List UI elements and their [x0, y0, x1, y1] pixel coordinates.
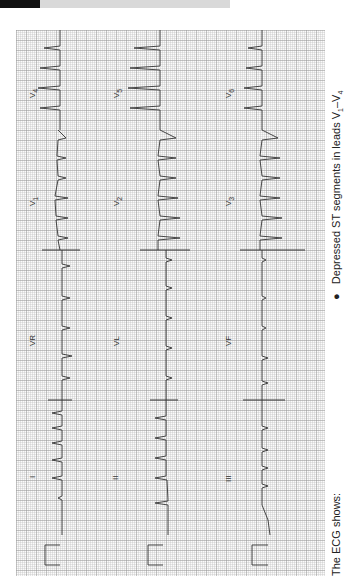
lead-label-III: III: [224, 475, 233, 482]
lead-label-I: I: [28, 476, 37, 478]
lead-label-V2: V2: [112, 197, 123, 206]
bullet-icon: ●: [330, 293, 342, 300]
lead-label-V5: V5: [112, 89, 123, 98]
lead-label-V6: V6: [224, 89, 235, 98]
lead-label-V4: V4: [28, 89, 39, 98]
lead-letter: V: [28, 201, 37, 206]
bullet-text: Depressed ST segments in leads V: [330, 112, 342, 284]
caption-bullet: ● Depressed ST segments in leads V1–V4: [330, 91, 344, 300]
lead-letter: V: [112, 93, 121, 98]
lead-letter: V: [224, 201, 233, 206]
ecg-traces: [0, 0, 344, 576]
lead-sub: 6: [228, 89, 235, 93]
lead-label-V1: V1: [28, 197, 39, 206]
lead-sub: 5: [116, 89, 123, 93]
bullet-sub: 1: [337, 108, 344, 112]
lead-sub: 1: [32, 197, 39, 201]
lead-label-V3: V3: [224, 197, 235, 206]
lead-letter: V: [112, 201, 121, 206]
lead-label-VL: VL: [112, 336, 121, 346]
caption-intro: The ECG shows:: [330, 493, 342, 576]
lead-sub: 2: [116, 197, 123, 201]
bullet-sub: 4: [337, 91, 344, 95]
bullet-dash: –V: [330, 95, 342, 108]
lead-label-VR: VR: [28, 335, 37, 346]
lead-letter: V: [28, 93, 37, 98]
lead-letter: V: [224, 93, 233, 98]
lead-label-II: II: [111, 476, 120, 480]
lead-label-VF: VF: [224, 336, 233, 346]
lead-sub: 3: [228, 197, 235, 201]
lead-sub: 4: [32, 89, 39, 93]
